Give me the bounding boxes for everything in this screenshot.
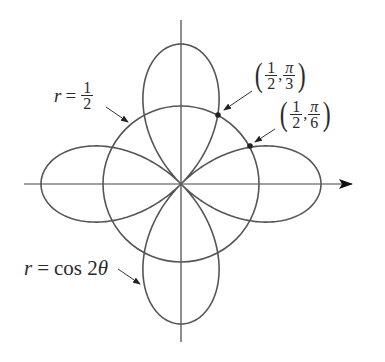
comma: , [303,106,307,122]
numerator: 1 [290,99,302,115]
arrow-circle-label [106,107,128,122]
equals-sign: = [37,258,49,279]
right-paren: ) [323,97,331,131]
cos-2-text: cos 2 [54,258,98,279]
equals-sign: = [65,86,76,105]
denominator: 3 [283,76,295,91]
comma: , [278,67,282,83]
arrow-point-pi-3 [224,91,252,110]
left-paren: ( [255,58,263,92]
point-label-pi-6: ( 1 2 , π 6 ) [278,97,333,131]
denominator: 6 [308,115,320,130]
polar-diagram: r = 1 2 r = cos 2 θ ( 1 2 , π 3 ) ( 1 2 … [0,0,385,362]
fraction-one-half: 1 2 [81,80,93,111]
var-r: r [24,258,32,279]
circle-equation-label: r = 1 2 [54,80,94,111]
numerator: π [283,60,295,76]
arrow-rose-label [118,269,140,284]
rose-equation-label: r = cos 2 θ [24,258,108,279]
fraction-pi-6: π 6 [308,99,320,130]
plot-svg [0,0,385,362]
numerator: π [308,99,320,115]
arrow-point-pi-6 [255,129,275,142]
numerator: 1 [265,60,277,76]
denominator: 2 [81,96,93,111]
fraction-one-half: 1 2 [265,60,277,91]
var-r: r [54,86,61,105]
fraction-one-half: 1 2 [290,99,302,130]
numerator: 1 [81,80,93,96]
right-paren: ) [298,58,306,92]
denominator: 2 [265,76,277,91]
denominator: 2 [290,115,302,130]
var-theta: θ [98,258,108,279]
point-label-pi-3: ( 1 2 , π 3 ) [253,58,308,92]
intersection-point-pi-3 [215,112,221,118]
fraction-pi-3: π 3 [283,60,295,91]
intersection-point-pi-6 [247,143,253,149]
left-paren: ( [280,97,288,131]
